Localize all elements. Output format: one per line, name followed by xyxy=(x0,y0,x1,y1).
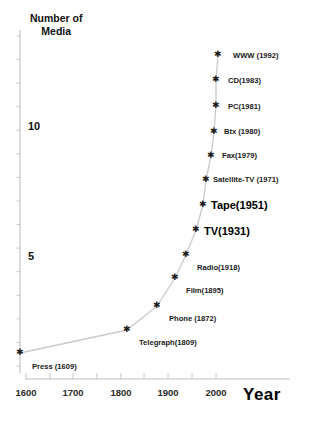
data-point-label: Tape(1951) xyxy=(211,200,268,211)
data-point-label: Press (1609) xyxy=(32,363,77,371)
x-axis-tick-label: 1800 xyxy=(110,388,131,398)
data-point-label: Radio(1918) xyxy=(197,264,240,272)
data-point-marker: ✱ xyxy=(212,74,220,84)
data-point-label: Phone (1872) xyxy=(169,315,216,323)
data-point-label: WWW (1992) xyxy=(233,52,279,60)
data-point-marker: ✱ xyxy=(214,49,222,59)
x-axis-tick-label: 2000 xyxy=(205,388,226,398)
data-series-line xyxy=(20,55,218,353)
data-point-marker: ✱ xyxy=(16,347,24,357)
x-axis-ticks xyxy=(26,373,216,379)
data-point-marker: ✱ xyxy=(192,224,200,234)
y-axis-title-line2: Media xyxy=(30,25,83,38)
data-point-marker: ✱ xyxy=(210,126,218,136)
data-point-label: Telegraph(1809) xyxy=(139,339,197,347)
y-axis-title: Number of Media xyxy=(30,12,83,38)
data-point-marker: ✱ xyxy=(171,272,179,282)
data-point-marker: ✱ xyxy=(182,249,190,259)
y-axis-title-line1: Number of xyxy=(30,12,83,25)
x-axis-tick-label: 1600 xyxy=(15,388,36,398)
data-point-label: Satellite-TV (1971) xyxy=(213,176,278,184)
x-axis-tick-label: 1900 xyxy=(157,388,178,398)
data-point-label: Film(1895) xyxy=(186,287,224,295)
data-point-label: TV(1931) xyxy=(204,226,250,237)
data-point-label: PC(1981) xyxy=(228,103,261,111)
data-point-marker: ✱ xyxy=(212,100,220,110)
y-axis-tick-label: 10 xyxy=(28,121,40,132)
data-point-marker: ✱ xyxy=(207,150,215,160)
x-axis-title: Year xyxy=(243,386,281,403)
chart-container: ✱✱✱✱✱✱✱✱✱✱✱✱✱ Number of Media 105 160017… xyxy=(0,0,312,422)
chart-plot-area: ✱✱✱✱✱✱✱✱✱✱✱✱✱ xyxy=(0,0,312,422)
data-point-markers: ✱✱✱✱✱✱✱✱✱✱✱✱✱ xyxy=(16,49,222,357)
data-point-marker: ✱ xyxy=(153,300,161,310)
data-point-marker: ✱ xyxy=(123,324,131,334)
data-point-label: Fax(1979) xyxy=(222,152,257,160)
data-point-label: CD(1983) xyxy=(228,77,261,85)
y-axis-tick-label: 5 xyxy=(28,251,34,262)
data-point-label: Btx (1980) xyxy=(224,128,260,136)
data-point-marker: ✱ xyxy=(199,199,207,209)
data-point-marker: ✱ xyxy=(202,174,210,184)
x-axis-tick-label: 1700 xyxy=(62,388,83,398)
